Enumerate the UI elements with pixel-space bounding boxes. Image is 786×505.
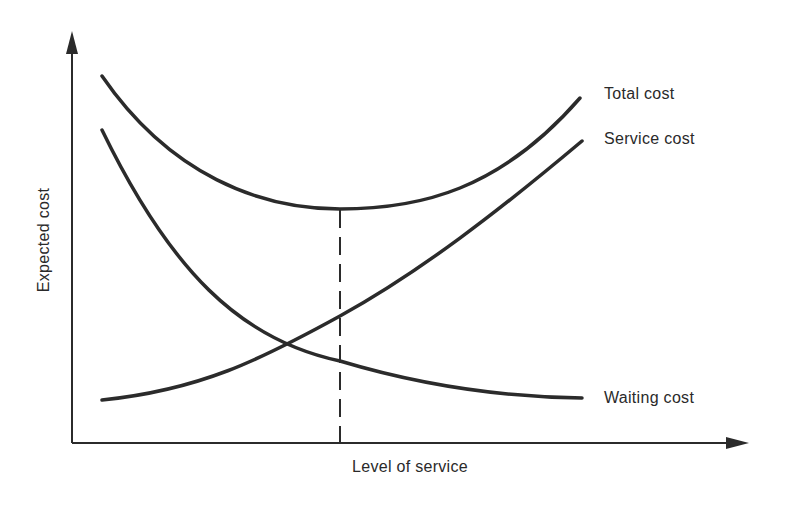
total-cost-curve xyxy=(102,76,580,209)
y-axis-label: Expected cost xyxy=(35,188,53,292)
waiting-cost-label: Waiting cost xyxy=(604,389,694,407)
cost-tradeoff-chart: Total cost Service cost Waiting cost Lev… xyxy=(0,0,786,505)
x-axis-label: Level of service xyxy=(352,458,468,476)
service-cost-label: Service cost xyxy=(604,130,695,148)
waiting-cost-curve xyxy=(102,130,582,398)
y-axis-arrow-icon xyxy=(66,31,78,54)
x-axis-arrow-icon xyxy=(726,437,749,449)
total-cost-label: Total cost xyxy=(604,85,675,103)
chart-canvas xyxy=(0,0,786,505)
